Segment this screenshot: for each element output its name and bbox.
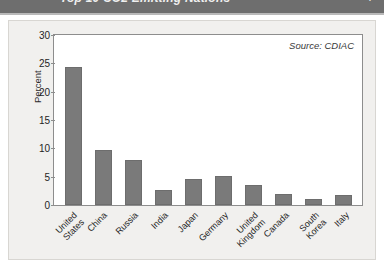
bar-india[interactable]	[155, 190, 172, 205]
y-tick-label: 5	[26, 171, 50, 182]
page-number: 7	[368, 0, 374, 3]
y-tick-label: 10	[26, 143, 50, 154]
y-tick-label: 30	[26, 30, 50, 41]
header-divider	[0, 13, 384, 15]
bar-slot	[178, 35, 208, 205]
page-header-title: Top 10 CO2 Emitting Nations	[60, 0, 230, 5]
x-tick-label: India	[113, 210, 170, 267]
y-tick-label: 20	[26, 86, 50, 97]
bar-slot	[268, 35, 298, 205]
bar-south-korea[interactable]	[305, 199, 322, 205]
bar-united-states[interactable]	[65, 67, 82, 205]
y-tick-mark	[51, 205, 55, 206]
bar-canada[interactable]	[275, 194, 292, 205]
bar-slot	[58, 35, 88, 205]
x-axis-labels: UnitedStatesChinaRussiaIndiaJapanGermany…	[53, 207, 363, 261]
y-tick-label: 15	[26, 115, 50, 126]
figure-panel: Source: CDIAC Percent 051015202530 Unite…	[8, 20, 376, 260]
bar-slot	[208, 35, 238, 205]
bar-slot	[148, 35, 178, 205]
bar-united-kingdom[interactable]	[245, 185, 262, 205]
bar-series	[54, 35, 362, 205]
bar-slot	[328, 35, 358, 205]
bar-japan[interactable]	[185, 179, 202, 205]
bar-russia[interactable]	[125, 160, 142, 205]
y-tick-label: 25	[26, 58, 50, 69]
bar-slot	[88, 35, 118, 205]
x-tick-label: Japan	[143, 210, 200, 267]
bar-china[interactable]	[95, 150, 112, 205]
page-header-bar: Top 10 CO2 Emitting Nations 7	[0, 0, 384, 13]
bar-slot	[238, 35, 268, 205]
bar-germany[interactable]	[215, 176, 232, 205]
bar-italy[interactable]	[335, 195, 352, 205]
plot-area: Source: CDIAC Percent 051015202530	[53, 34, 363, 206]
bar-slot	[298, 35, 328, 205]
y-tick-label: 0	[26, 200, 50, 211]
bar-slot	[118, 35, 148, 205]
x-tick-label: Russia	[83, 210, 140, 267]
